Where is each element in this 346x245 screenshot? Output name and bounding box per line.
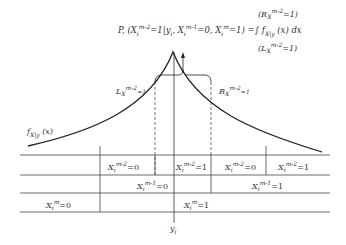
formula-part: =0, X (197, 25, 221, 35)
arg: (x) (42, 127, 53, 136)
curve-label: fX|y (x) (27, 128, 53, 138)
cell-r1c1: Xim-1=1 (252, 180, 283, 192)
sub: i (190, 204, 192, 211)
val: =1 (137, 88, 146, 95)
sup: m-2 (184, 160, 196, 167)
val: =0 (127, 163, 139, 172)
sub: i (258, 185, 260, 192)
val: =1 (297, 163, 309, 172)
formula-part: =1|y (150, 25, 170, 35)
sub: X (225, 90, 229, 97)
sub: i (143, 185, 145, 192)
cell-r2c0: Xim=0 (46, 199, 71, 211)
upper-limit-text: (R (258, 10, 267, 19)
sub: X|y (30, 131, 40, 138)
val: =0 (156, 182, 168, 191)
val: =1 (241, 88, 250, 95)
sub: X (266, 47, 270, 54)
sub: i (137, 30, 139, 37)
sub: i (284, 166, 286, 173)
lower-limit-val: =1) (282, 44, 297, 53)
val: =1 (271, 182, 283, 191)
lower-limit: (LXm-2=1) (258, 42, 297, 54)
upper-limit-val: =1) (283, 10, 298, 19)
upper-limit: (RXm-2=1) (258, 8, 298, 20)
sub: X (267, 13, 271, 20)
cell-r2c1: Xim=1 (184, 199, 209, 211)
sup: m-2 (229, 84, 241, 91)
axis-label-yi: yi (170, 225, 176, 235)
sub: i (52, 204, 54, 211)
val: =0 (244, 163, 256, 172)
right-bound-label: RXm-2=1 (219, 85, 250, 97)
arrow-head-icon (181, 52, 185, 58)
sup: m-2 (271, 7, 283, 14)
sub: X (121, 90, 125, 97)
formula-integrand: (x) dx (277, 25, 301, 35)
sub: X|y (265, 30, 275, 37)
sup: m-2 (286, 160, 298, 167)
formula-part: =1) =∫ f (229, 25, 265, 35)
cell-r0c1: Xim-2=1 (176, 161, 207, 173)
formula-part: , X (172, 25, 183, 35)
cell-r0c2: Xim-2=0 (225, 161, 256, 173)
cell-r1c0: Xim-1=0 (137, 180, 168, 192)
sub: i (184, 30, 186, 37)
sup: m-2 (271, 41, 283, 48)
sub: i (175, 228, 177, 235)
density-curve (28, 52, 322, 152)
sup: m-2 (116, 160, 128, 167)
probability-formula: P, (Xim-2=1|yi, Xim-1=0, Xim=1) =∫ fX|y … (118, 24, 302, 37)
cell-r0c0: Xim-2=0 (108, 161, 139, 173)
formula-lhs: P, (X (118, 25, 137, 35)
sup: m-1 (186, 23, 198, 30)
left-bound-label: LXm-2=1 (116, 85, 146, 97)
sup: m-2 (126, 84, 138, 91)
val: =1 (197, 201, 209, 210)
sub: i (182, 166, 184, 173)
sub: i (231, 166, 233, 173)
sup: m-2 (233, 160, 245, 167)
sub: i (221, 30, 223, 37)
val: =1 (195, 163, 207, 172)
val: =0 (59, 201, 71, 210)
sup: m-1 (260, 179, 272, 186)
sup: m-1 (145, 179, 157, 186)
sub: i (114, 166, 116, 173)
sup: m-2 (139, 23, 151, 30)
cell-r0c3: Xim-2=1 (278, 161, 309, 173)
